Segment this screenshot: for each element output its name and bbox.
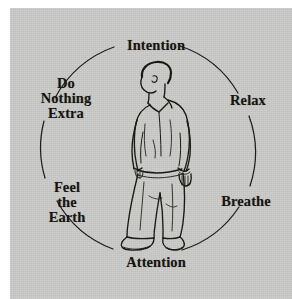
label-breathe: Breathe <box>200 194 292 209</box>
shirt-fold-b <box>144 124 146 156</box>
paper-panel: Intention Relax Breathe Attention Feel t… <box>10 8 292 299</box>
arc-relax-to-breathe <box>249 116 255 186</box>
standing-man-illustration <box>121 62 191 250</box>
shirt-fold-c <box>153 140 155 158</box>
label-feel-the-earth: Feel the Earth <box>30 180 104 225</box>
trouser-fold-b <box>172 184 173 231</box>
trouser-hem-right <box>163 237 180 239</box>
waistband <box>137 169 182 173</box>
hair-outline <box>142 62 171 83</box>
diagram-page: Intention Relax Breathe Attention Feel t… <box>0 0 292 299</box>
arc-feel-to-do-nothing <box>41 121 45 178</box>
trouser-fold-a <box>140 182 144 230</box>
ear <box>152 76 157 83</box>
trouser-fold-d <box>166 204 177 207</box>
head-profile <box>141 77 156 93</box>
label-relax: Relax <box>206 93 290 108</box>
collar-notch <box>159 103 168 112</box>
shirt-placket <box>159 113 161 156</box>
right-cuff-line <box>179 172 190 174</box>
label-attention: Attention <box>98 255 214 270</box>
collar-left <box>148 103 159 112</box>
shirt-fold-a <box>170 120 172 156</box>
right-arm-inner <box>179 133 181 166</box>
arc-breathe-to-attention <box>182 207 239 250</box>
trousers-inner-left <box>160 193 163 238</box>
neck-back <box>164 84 165 97</box>
neck-front <box>148 93 149 103</box>
left-arm-inner <box>141 132 143 163</box>
trousers-crotch <box>154 193 160 238</box>
label-intention: Intention <box>100 38 212 53</box>
trouser-hem-left <box>127 237 154 239</box>
label-do-nothing-extra: Do Nothing Extra <box>24 76 108 121</box>
trousers-left-outer <box>127 174 138 237</box>
waistband-lower <box>138 174 183 178</box>
